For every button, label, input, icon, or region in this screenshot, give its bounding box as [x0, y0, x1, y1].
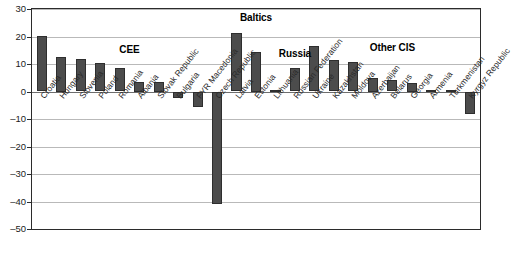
- y-axis: 3020100–10–20–30–40–50: [0, 0, 31, 238]
- bar: [290, 68, 300, 92]
- bar: [251, 52, 261, 92]
- y-tick-label: –10: [10, 114, 26, 124]
- bar: [329, 60, 339, 91]
- bar: [154, 82, 164, 92]
- y-tick-label: –20: [10, 142, 26, 152]
- bar: [76, 59, 86, 92]
- bar: [212, 92, 222, 205]
- group-label-other-cis: Other CIS: [370, 42, 415, 53]
- y-tick-label: –40: [10, 197, 26, 207]
- y-tick-label: –30: [10, 169, 26, 179]
- y-tick-label: 0: [21, 87, 26, 97]
- bar: [270, 90, 280, 92]
- y-tick-label: –50: [10, 224, 26, 234]
- y-tick-label: 30: [15, 4, 26, 14]
- bar: [465, 92, 475, 114]
- bar: [193, 92, 203, 107]
- bar: [95, 63, 105, 91]
- bar: [387, 80, 397, 91]
- group-label-russia: Russia: [279, 48, 311, 59]
- y-tick-label: 20: [15, 32, 26, 42]
- bar: [368, 78, 378, 92]
- bar: [446, 90, 456, 92]
- bar: [56, 57, 66, 91]
- bar: [115, 68, 125, 92]
- bar: [134, 82, 144, 92]
- bar: [407, 83, 417, 91]
- gridline: [32, 229, 480, 230]
- bar: [37, 36, 47, 92]
- group-label-cee: CEE: [119, 44, 139, 55]
- bar: [173, 92, 183, 98]
- bar: [348, 62, 358, 92]
- bar: [426, 90, 436, 92]
- bar: [231, 33, 241, 91]
- group-label-baltics: Baltics: [240, 12, 272, 23]
- y-tick-label: 10: [15, 59, 26, 69]
